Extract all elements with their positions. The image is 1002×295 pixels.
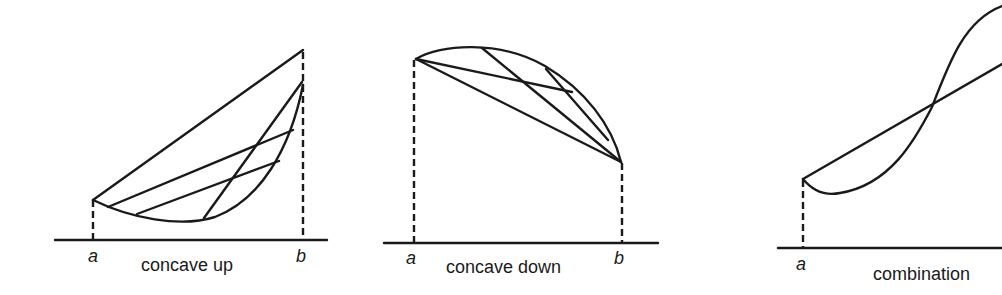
panel-combination: a combination — [778, 6, 1002, 284]
chord-4 — [204, 82, 302, 218]
point-label-a: a — [88, 246, 98, 266]
chord-main — [803, 64, 1002, 179]
chord-2 — [416, 59, 572, 92]
chord-main — [416, 59, 621, 162]
point-label-b: b — [614, 248, 624, 268]
point-label-a: a — [406, 248, 416, 268]
panel-concave-down: a b concave down — [384, 47, 658, 277]
s-shaped-curve — [803, 6, 1002, 194]
panel-caption: combination — [873, 264, 970, 284]
panel-caption: concave up — [141, 255, 233, 275]
chord-3 — [482, 48, 621, 162]
concavity-figure: a b concave up a b concave down a combin… — [0, 0, 1002, 295]
point-label-b: b — [296, 246, 306, 266]
point-label-a: a — [796, 254, 806, 274]
panel-caption: concave down — [446, 257, 561, 277]
panel-concave-up: a b concave up — [55, 50, 327, 275]
